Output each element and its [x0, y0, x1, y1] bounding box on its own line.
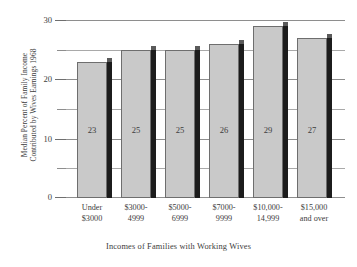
x-axis-tick-labels: Under $3000 $3000- 4999 $5000- 6999 $700…: [66, 202, 345, 232]
bar-value-6: 27: [297, 125, 327, 135]
y-tick-5: [57, 168, 66, 169]
y-tick-20: [55, 79, 66, 80]
y-axis-title-line-2: Contributed by Wives Earnings 1968: [29, 10, 39, 200]
bar-chart: Median Percent of Family Income Contribu…: [0, 0, 357, 267]
bar-body-4: [209, 44, 239, 198]
y-tick-label-20: 20: [43, 74, 52, 84]
plot-area: 30 20 10 0 23: [66, 20, 345, 198]
x-axis-title: Incomes of Families with Working Wives: [0, 242, 357, 251]
y-tick-label-30: 30: [43, 15, 52, 25]
bar-body-2: [121, 50, 151, 198]
bar-shadow-1: [107, 62, 112, 199]
bar-value-4: 26: [209, 125, 239, 135]
bar-body-6: [297, 38, 327, 198]
bar-value-3: 25: [165, 125, 195, 135]
bar-body-3: [165, 50, 195, 198]
bar-shadow-5: [283, 26, 288, 198]
y-tick-0: [55, 197, 66, 198]
bar-value-2: 25: [121, 125, 151, 135]
bar-body-5: [253, 26, 283, 198]
y-tick-10: [55, 139, 66, 140]
y-tick-25: [57, 50, 66, 51]
x-tick-label-6-line-2: and over: [286, 213, 342, 224]
y-tick-label-0: 0: [48, 192, 52, 202]
bar-series: 23 25 25 26: [66, 20, 345, 198]
x-tick-label-6-line-1: $15,000: [286, 202, 342, 213]
bar-shadow-3: [195, 50, 200, 198]
y-axis-title: Median Percent of Family Income Contribu…: [0, 0, 46, 205]
bar-shadow-6: [327, 38, 332, 198]
y-tick-30: [55, 20, 66, 21]
bar-shadow-2: [151, 50, 156, 198]
x-tick-label-6: $15,000 and over: [286, 202, 342, 224]
bar-shadow-4: [239, 44, 244, 198]
bar-value-5: 29: [253, 125, 283, 135]
y-tick-label-10: 10: [43, 134, 52, 144]
bar-value-1: 23: [77, 125, 107, 135]
y-tick-15: [57, 109, 66, 110]
